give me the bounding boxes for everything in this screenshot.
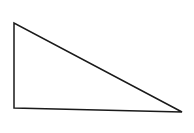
triangle-shape	[14, 23, 182, 112]
triangle-diagram	[0, 0, 194, 133]
